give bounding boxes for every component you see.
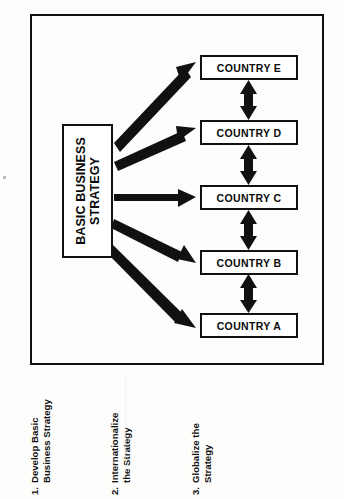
scan-speck	[3, 176, 6, 179]
country-box-c: COUNTRY C	[200, 185, 298, 210]
country-box-d: COUNTRY D	[200, 120, 298, 145]
basic-business-strategy-label: BASIC BUSINESS STRATEGY	[74, 137, 102, 245]
caption-2-line-1: Internationalize	[109, 413, 121, 483]
caption-3-line-1: Globalize the	[190, 423, 202, 483]
caption-3-number: 3.	[190, 487, 202, 495]
caption-1-number: 1.	[29, 487, 41, 495]
caption-1-line-2: Business Strategy	[41, 399, 53, 483]
country-label-b: COUNTRY B	[217, 257, 282, 269]
caption-2: 2. Internationalize the Strategy	[109, 413, 132, 495]
caption-3: 3. Globalize the Strategy	[190, 423, 213, 495]
caption-3-line-2: Strategy	[202, 423, 214, 483]
country-box-b: COUNTRY B	[200, 250, 298, 275]
caption-1: 1. Develop Basic Business Strategy	[29, 399, 52, 495]
scanned-page-background: BASIC BUSINESS STRATEGY COUNTRY E COUNTR…	[0, 0, 344, 499]
caption-2-line-2: the Strategy	[121, 413, 133, 483]
basic-business-strategy-box: BASIC BUSINESS STRATEGY	[62, 124, 113, 258]
caption-2-number: 2.	[109, 487, 121, 495]
strategy-label-line-1: BASIC BUSINESS	[74, 137, 88, 245]
country-box-e: COUNTRY E	[200, 55, 298, 80]
caption-1-line-1: Develop Basic	[29, 399, 41, 483]
strategy-label-line-2: STRATEGY	[88, 157, 102, 225]
scan-fold-line	[125, 372, 126, 472]
country-label-d: COUNTRY D	[217, 127, 282, 139]
country-box-a: COUNTRY A	[200, 313, 298, 338]
country-label-c: COUNTRY C	[217, 192, 282, 204]
caption-row: 1. Develop Basic Business Strategy 2. In…	[0, 366, 344, 499]
country-label-e: COUNTRY E	[217, 62, 281, 74]
country-label-a: COUNTRY A	[217, 320, 282, 332]
